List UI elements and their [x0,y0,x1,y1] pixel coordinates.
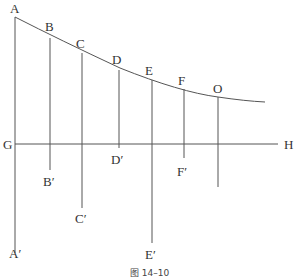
label-f: F [178,73,185,88]
label-b: B [45,19,54,34]
label-o: O [213,81,222,96]
label-e-prime: E′ [145,247,156,262]
label-d-prime: D′ [111,152,123,167]
label-g: G [3,137,12,152]
label-d: D [112,52,121,67]
label-a-prime: A′ [9,246,21,261]
label-a: A [10,1,20,16]
label-c-prime: C′ [75,211,87,226]
label-h: H [284,137,293,152]
label-c: C [76,36,85,51]
diagram: A B C D E F O G H A′ B′ C′ D′ E′ F′ 图 14… [0,0,295,279]
figure-caption: 图 14–10 [130,268,170,278]
label-b-prime: B′ [43,174,55,189]
label-f-prime: F′ [177,164,187,179]
label-e: E [145,63,153,78]
